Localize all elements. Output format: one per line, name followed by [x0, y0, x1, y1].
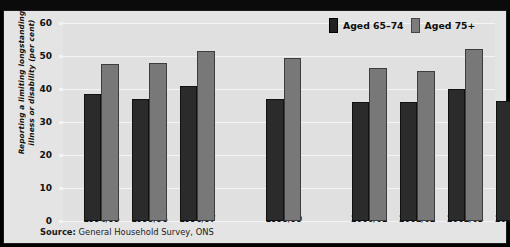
- y-tick-label: 0: [22, 216, 52, 226]
- source-note: Source: General Household Survey, ONS: [40, 227, 214, 237]
- source-text: General Household Survey, ONS: [76, 227, 214, 237]
- chart-figure: Reporting a limiting longstanding illnes…: [0, 0, 510, 247]
- bar-2002-03-series1: [448, 89, 466, 221]
- legend-label: Aged 75+: [425, 20, 476, 31]
- bar-1996-97-series2: [197, 51, 215, 221]
- legend-swatch-light: [411, 18, 420, 33]
- bar-2003-04-series1: [496, 101, 510, 221]
- bar-2001-02-series1: [400, 102, 418, 221]
- bar-1998-99-series2: [284, 58, 302, 221]
- y-tick-label: 50: [22, 51, 52, 61]
- legend-swatch-dark: [329, 18, 338, 33]
- legend-label: Aged 65–74: [343, 20, 404, 31]
- bar-2001-02-series2: [417, 71, 435, 221]
- bar-1995-96-series2: [149, 63, 167, 221]
- y-tick-label: 30: [22, 117, 52, 127]
- bar-2000-01-series2: [369, 68, 387, 221]
- bar-1996-97-series1: [180, 86, 198, 221]
- legend-item-2: Aged 75+: [411, 18, 476, 33]
- bar-1995-96-series1: [132, 99, 150, 221]
- legend-item-1: Aged 65–74: [329, 18, 404, 33]
- bars-layer: [63, 23, 495, 221]
- bar-2000-01-series1: [352, 102, 370, 221]
- y-tick-label: 60: [22, 18, 52, 28]
- bar-1994-95-series2: [101, 64, 119, 221]
- chart-panel: Reporting a limiting longstanding illnes…: [3, 10, 507, 244]
- y-tick-label: 10: [22, 183, 52, 193]
- y-tick-label: 20: [22, 150, 52, 160]
- source-label: Source:: [40, 227, 76, 237]
- y-tick-label: 40: [22, 84, 52, 94]
- bar-2002-03-series2: [465, 49, 483, 221]
- bar-1994-95-series1: [84, 94, 102, 221]
- bar-1998-99-series1: [266, 99, 284, 221]
- legend: Aged 65–74Aged 75+: [329, 18, 475, 33]
- top-black-band: [0, 0, 510, 10]
